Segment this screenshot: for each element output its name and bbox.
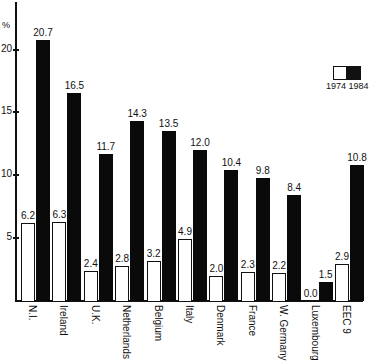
- category-label: Denmark: [215, 305, 226, 346]
- bar-1984: [67, 93, 81, 301]
- y-tick-20: [13, 49, 19, 51]
- bar-1974: [335, 264, 349, 301]
- value-label: 12.0: [185, 137, 215, 148]
- category-label: Netherlands: [121, 305, 132, 359]
- category-label: EEC 9: [341, 305, 352, 334]
- bar-1984: [256, 178, 270, 301]
- bar-1974: [84, 271, 98, 301]
- bar-1974: [21, 223, 35, 301]
- value-label: 8.4: [279, 182, 309, 193]
- bar-1974: [209, 276, 223, 301]
- category-label: W. Germany: [278, 305, 289, 361]
- y-tick-label: 5: [0, 231, 12, 242]
- category-label: Ireland: [58, 305, 69, 336]
- legend-swatch-1974: [333, 66, 347, 80]
- bar-1974: [115, 266, 129, 301]
- y-tick-15: [13, 111, 19, 113]
- category-label: U.K.: [90, 305, 101, 324]
- category-label: Luxembourg: [310, 305, 321, 361]
- bar-1984: [130, 121, 144, 301]
- y-tick-label: 10: [0, 168, 12, 179]
- bar-1984: [287, 195, 301, 301]
- value-label: 11.7: [91, 141, 121, 152]
- bar-1974: [147, 261, 161, 301]
- legend-swatch-1984: [347, 66, 361, 80]
- y-tick-label: 20: [0, 43, 12, 54]
- bar-1984: [36, 40, 50, 301]
- category-label: N.I.: [27, 305, 38, 321]
- value-label: 9.8: [248, 165, 278, 176]
- y-axis-unit-label: %: [2, 20, 10, 30]
- value-label: 14.3: [122, 108, 152, 119]
- bar-1974: [272, 273, 286, 301]
- bar-chart: % 5 10 15 20 6.220.7N.I.6.316.5Ireland2.…: [0, 0, 380, 361]
- category-label: Italy: [184, 305, 195, 323]
- bar-1984: [350, 165, 364, 301]
- y-tick-5: [13, 237, 19, 239]
- bar-1984: [99, 154, 113, 301]
- value-label: 10.4: [216, 157, 246, 168]
- value-label: 10.8: [342, 152, 372, 163]
- bar-1984: [162, 131, 176, 301]
- bar-1974: [52, 222, 66, 301]
- bar-1974: [178, 239, 192, 301]
- category-label: Belgium: [153, 305, 164, 341]
- bar-1984: [319, 282, 333, 301]
- y-axis: [15, 2, 17, 302]
- y-tick-10: [13, 174, 19, 176]
- bar-1984: [224, 170, 238, 301]
- bar-1974: [304, 301, 318, 302]
- y-tick-label: 15: [0, 105, 12, 116]
- value-label: 20.7: [28, 27, 58, 38]
- value-label: 13.5: [154, 118, 184, 129]
- bar-1984: [193, 150, 207, 301]
- category-label: France: [247, 305, 258, 336]
- bar-1974: [241, 272, 255, 301]
- value-label: 16.5: [59, 80, 89, 91]
- legend-label: 1974 1984: [326, 81, 369, 91]
